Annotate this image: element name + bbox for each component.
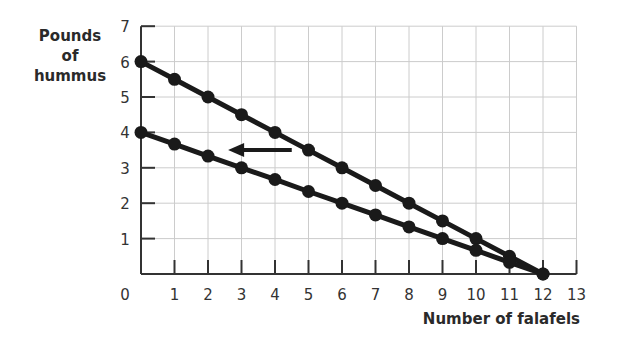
data-point <box>436 214 449 227</box>
y-tick-label: 5 <box>120 89 130 107</box>
data-point <box>436 232 449 245</box>
x-tick-label: 5 <box>304 286 314 304</box>
arrow-head-icon <box>228 143 244 157</box>
data-point <box>235 108 248 121</box>
data-point <box>168 73 181 86</box>
data-point <box>537 268 550 281</box>
data-point <box>302 185 315 198</box>
x-tick-label: 11 <box>500 286 519 304</box>
y-tick-label: 3 <box>120 160 130 178</box>
y-tick-label: 1 <box>120 231 130 249</box>
x-tick-label: 12 <box>533 286 552 304</box>
x-tick-label: 13 <box>567 286 586 304</box>
data-point <box>470 232 483 245</box>
x-tick-label: 2 <box>203 286 213 304</box>
x-tick-label: 0 <box>120 286 130 304</box>
x-tick-label: 3 <box>237 286 247 304</box>
data-point <box>202 91 215 104</box>
data-point <box>135 55 148 68</box>
y-tick-label: 4 <box>120 124 130 142</box>
data-point <box>369 179 382 192</box>
x-tick-label: 1 <box>170 286 180 304</box>
x-tick-label: 9 <box>438 286 448 304</box>
x-tick-label: 10 <box>466 286 485 304</box>
data-point <box>369 208 382 221</box>
data-point <box>403 220 416 233</box>
data-point <box>336 161 349 174</box>
data-point <box>168 138 181 151</box>
data-point <box>403 197 416 210</box>
x-tick-label: 6 <box>337 286 347 304</box>
data-point <box>269 173 282 186</box>
ppf-chart: 0123456789101112131234567 <box>0 0 617 356</box>
data-point <box>503 256 516 269</box>
y-tick-label: 6 <box>120 54 130 72</box>
x-tick-label: 8 <box>404 286 414 304</box>
x-tick-label: 4 <box>270 286 280 304</box>
data-point <box>135 126 148 139</box>
y-tick-label: 7 <box>120 18 130 36</box>
data-point <box>202 150 215 163</box>
data-point <box>269 126 282 139</box>
x-tick-label: 7 <box>371 286 381 304</box>
y-tick-label: 2 <box>120 195 130 213</box>
data-point <box>470 244 483 257</box>
data-point <box>302 144 315 157</box>
data-point <box>336 197 349 210</box>
data-point <box>235 161 248 174</box>
